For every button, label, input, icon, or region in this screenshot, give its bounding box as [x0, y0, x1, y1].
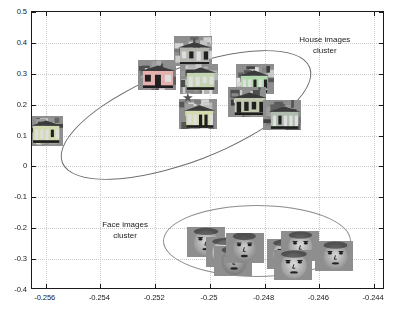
face-cluster-label-line2: cluster: [102, 230, 148, 241]
house-cluster-label-line1: House images: [299, 34, 350, 45]
x-axis-tick-label: -0.246: [308, 293, 329, 302]
x-axis-tick: [100, 284, 101, 288]
y-axis-tick: [32, 43, 36, 44]
grid-line-vertical: [46, 12, 47, 288]
y-axis-tick: [32, 74, 36, 75]
x-axis-tick-label: -0.248: [253, 293, 274, 302]
face-image-thumbnail: [315, 241, 353, 271]
scatter-plot-figure: ★ House images cluster Face images clust…: [0, 0, 397, 319]
x-axis-tick-label: -0.252: [144, 293, 165, 302]
y-axis-tick: [32, 12, 36, 13]
x-axis-tick: [46, 284, 47, 288]
x-axis-tick: [210, 284, 211, 288]
y-axis-tick-label: -0.1: [0, 192, 27, 201]
x-axis-tick: [155, 12, 156, 16]
y-axis-tick: [379, 228, 383, 229]
house-image-thumbnail: [263, 100, 301, 130]
y-axis-tick-label: 0.2: [0, 99, 27, 108]
face-cluster-label: Face images cluster: [102, 219, 148, 241]
face-image-thumbnail: [226, 233, 264, 263]
y-axis-tick: [379, 105, 383, 106]
y-axis-tick: [32, 105, 36, 106]
y-axis-tick: [32, 197, 36, 198]
x-axis-tick-label: -0.244: [363, 293, 384, 302]
x-axis-tick-label: -0.25: [200, 293, 217, 302]
x-axis-tick-label: -0.254: [89, 293, 110, 302]
grid-line-vertical: [374, 12, 375, 288]
y-axis-tick-label: -0.2: [0, 223, 27, 232]
house-cluster-label-line2: cluster: [299, 45, 350, 56]
plot-area: ★ House images cluster Face images clust…: [31, 11, 384, 289]
y-axis-tick: [379, 197, 383, 198]
x-axis-tick: [46, 12, 47, 16]
x-axis-tick-label: -0.256: [34, 293, 55, 302]
y-axis-tick: [379, 74, 383, 75]
y-axis-tick: [32, 166, 36, 167]
y-axis-tick-label: -0.4: [0, 285, 27, 294]
y-axis-tick-label: 0.5: [0, 7, 27, 16]
x-axis-tick: [374, 284, 375, 288]
house-image-thumbnail: [228, 87, 266, 117]
x-axis-tick: [265, 284, 266, 288]
x-axis-tick: [319, 284, 320, 288]
y-axis-tick: [32, 259, 36, 260]
y-axis-tick: [32, 228, 36, 229]
x-axis-tick: [100, 12, 101, 16]
grid-line-horizontal: [32, 197, 383, 198]
centroid-star-marker: ★: [182, 90, 194, 103]
y-axis-tick: [379, 259, 383, 260]
y-axis-tick-label: -0.3: [0, 254, 27, 263]
y-axis-tick: [379, 166, 383, 167]
y-axis-tick: [379, 136, 383, 137]
house-image-thumbnail: [138, 60, 176, 90]
x-axis-tick: [374, 12, 375, 16]
y-axis-tick-label: 0.4: [0, 37, 27, 46]
house-cluster-label: House images cluster: [299, 34, 350, 56]
x-axis-tick: [319, 12, 320, 16]
y-axis-tick-label: 0.3: [0, 68, 27, 77]
face-image-thumbnail: [274, 250, 312, 280]
y-axis-tick: [379, 12, 383, 13]
y-axis-tick: [379, 43, 383, 44]
house-image-thumbnail: [31, 116, 63, 146]
y-axis-tick-label: 0.1: [0, 130, 27, 139]
y-axis-tick-label: 0: [0, 161, 27, 170]
x-axis-tick: [155, 284, 156, 288]
face-cluster-label-line1: Face images: [102, 219, 148, 230]
x-axis-tick: [265, 12, 266, 16]
house-image-thumbnail: [174, 36, 212, 66]
x-axis-tick: [210, 12, 211, 16]
